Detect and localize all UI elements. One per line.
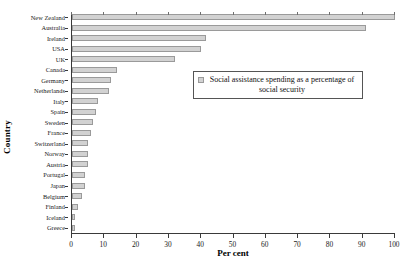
bar xyxy=(72,35,206,41)
bar-row xyxy=(72,191,395,202)
x-tick xyxy=(103,234,104,238)
x-tick-top xyxy=(329,12,330,15)
category-tick xyxy=(65,196,68,197)
bar-row xyxy=(72,159,395,170)
bar xyxy=(72,193,82,199)
category-tick xyxy=(65,38,68,39)
bar xyxy=(72,130,91,136)
category-tick xyxy=(65,144,68,145)
x-tick-top xyxy=(394,12,395,15)
category-tick xyxy=(65,28,68,29)
bar-row xyxy=(72,117,395,128)
category-tick xyxy=(65,49,68,50)
bar xyxy=(72,77,111,83)
x-tick xyxy=(136,234,137,238)
category-label: Canada xyxy=(0,65,68,76)
bar xyxy=(72,172,85,178)
bar xyxy=(72,14,395,20)
category-label: Switzerland xyxy=(0,138,68,149)
bar xyxy=(72,151,88,157)
category-tick xyxy=(65,217,68,218)
bar-row xyxy=(72,149,395,160)
bar-series xyxy=(72,12,395,233)
x-tick xyxy=(362,234,363,238)
x-tick xyxy=(168,234,169,238)
bar xyxy=(72,46,201,52)
x-tick-top xyxy=(71,12,72,15)
bar-row xyxy=(72,23,395,34)
category-tick xyxy=(65,80,68,81)
legend-label: Social assistance spending as a percenta… xyxy=(207,75,357,95)
category-tick xyxy=(65,123,68,124)
bar xyxy=(72,161,88,167)
bar-row xyxy=(72,222,395,233)
category-tick xyxy=(65,59,68,60)
bar-row xyxy=(72,128,395,139)
category-label: Sweden xyxy=(0,117,68,128)
x-tick-top xyxy=(233,12,234,15)
bar xyxy=(72,204,78,210)
bar xyxy=(72,25,366,31)
category-label: France xyxy=(0,128,68,139)
x-tick-top xyxy=(103,12,104,15)
category-tick xyxy=(65,207,68,208)
bar xyxy=(72,225,75,231)
category-axis-labels: New ZealandAustraliaIrelandUSAUKCanadaGe… xyxy=(0,12,68,233)
category-label: Finland xyxy=(0,201,68,212)
plot-area: 0102030405060708090100 xyxy=(71,12,395,234)
x-tick xyxy=(394,234,395,238)
x-tick-top xyxy=(265,12,266,15)
category-label: Belgium xyxy=(0,191,68,202)
x-tick-top xyxy=(297,12,298,15)
category-label: Iceland xyxy=(0,212,68,223)
bar-row xyxy=(72,201,395,212)
category-label: USA xyxy=(0,44,68,55)
x-tick xyxy=(265,234,266,238)
bar-row xyxy=(72,180,395,191)
x-tick xyxy=(71,234,72,238)
legend: Social assistance spending as a percenta… xyxy=(193,71,363,99)
bar xyxy=(72,67,117,73)
bar-chart: Country New ZealandAustraliaIrelandUSAUK… xyxy=(0,0,418,274)
category-tick xyxy=(65,175,68,176)
category-label: Austria xyxy=(0,159,68,170)
bar-row xyxy=(72,107,395,118)
bar-row xyxy=(72,33,395,44)
category-label: Norway xyxy=(0,149,68,160)
category-tick xyxy=(65,133,68,134)
bar-row xyxy=(72,44,395,55)
category-tick xyxy=(65,101,68,102)
x-tick xyxy=(200,234,201,238)
x-tick xyxy=(233,234,234,238)
category-label: UK xyxy=(0,54,68,65)
bar xyxy=(72,98,98,104)
category-label: Japan xyxy=(0,180,68,191)
category-tick xyxy=(65,17,68,18)
category-tick xyxy=(65,228,68,229)
category-label: Italy xyxy=(0,96,68,107)
x-tick-top xyxy=(362,12,363,15)
legend-swatch-icon xyxy=(198,77,204,83)
x-axis-title: Per cent xyxy=(71,248,395,258)
x-tick-top xyxy=(200,12,201,15)
bar xyxy=(72,88,109,94)
category-label: Ireland xyxy=(0,33,68,44)
category-tick xyxy=(65,70,68,71)
bar xyxy=(72,119,93,125)
bar-row xyxy=(72,54,395,65)
category-label: New Zealand xyxy=(0,12,68,23)
x-tick-top xyxy=(168,12,169,15)
category-tick xyxy=(65,112,68,113)
bar-row xyxy=(72,12,395,23)
category-tick xyxy=(65,154,68,155)
category-tick xyxy=(65,91,68,92)
x-tick-top xyxy=(136,12,137,15)
category-label: Netherlands xyxy=(0,86,68,97)
bar-row xyxy=(72,212,395,223)
bar xyxy=(72,214,75,220)
bar-row xyxy=(72,170,395,181)
category-label: Greece xyxy=(0,222,68,233)
category-label: Australia xyxy=(0,23,68,34)
category-label: Germany xyxy=(0,75,68,86)
bar xyxy=(72,140,88,146)
